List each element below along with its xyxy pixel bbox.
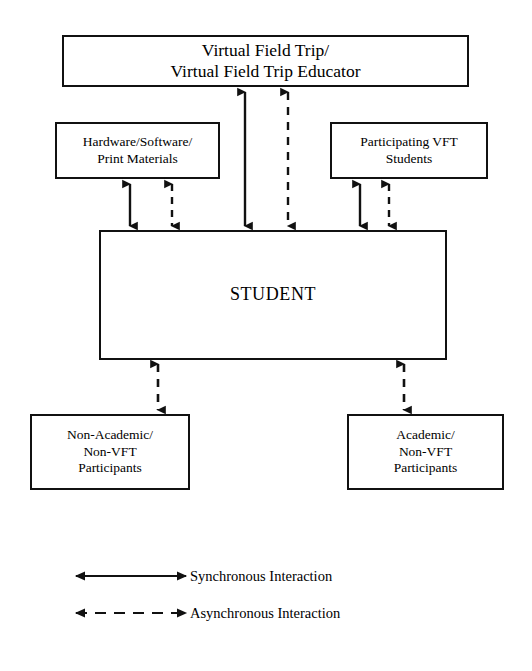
legend-synchronous-label: Synchronous Interaction	[190, 568, 332, 585]
legend-item-synchronous: Synchronous Interaction	[70, 565, 332, 587]
legend-solid-arrow-icon	[70, 565, 190, 587]
node-non-academic-participants-label: Non-Academic/ Non-VFT Participants	[63, 427, 157, 476]
legend-dashed-arrow-icon	[70, 602, 190, 624]
node-virtual-field-trip-label: Virtual Field Trip/ Virtual Field Trip E…	[167, 40, 365, 83]
node-non-academic-participants[interactable]: Non-Academic/ Non-VFT Participants	[30, 414, 190, 490]
diagram-canvas: Virtual Field Trip/ Virtual Field Trip E…	[0, 0, 532, 671]
node-participating-vft-students[interactable]: Participating VFT Students	[330, 122, 488, 179]
node-virtual-field-trip[interactable]: Virtual Field Trip/ Virtual Field Trip E…	[62, 35, 469, 87]
legend-asynchronous-label: Asynchronous Interaction	[190, 605, 340, 622]
node-student-label: STUDENT	[226, 284, 320, 306]
node-student[interactable]: STUDENT	[99, 230, 447, 360]
node-participating-vft-students-label: Participating VFT Students	[356, 134, 462, 167]
node-hardware-software-label: Hardware/Software/ Print Materials	[79, 134, 196, 167]
legend-item-asynchronous: Asynchronous Interaction	[70, 602, 340, 624]
node-academic-participants-label: Academic/ Non-VFT Participants	[390, 427, 462, 476]
node-academic-participants[interactable]: Academic/ Non-VFT Participants	[347, 414, 504, 490]
node-hardware-software[interactable]: Hardware/Software/ Print Materials	[55, 122, 220, 179]
